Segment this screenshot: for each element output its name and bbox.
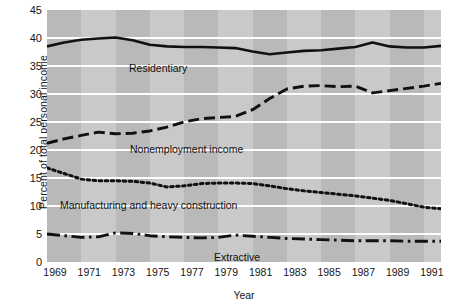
x-tick-label: 1977	[180, 266, 203, 278]
chart-figure: Percent of total personal income 0510152…	[0, 0, 451, 308]
x-tick-label: 1987	[352, 266, 375, 278]
x-tick-label: 1975	[146, 266, 169, 278]
series-label: Nonemployment income	[130, 143, 243, 155]
x-tick-label: 1981	[249, 266, 272, 278]
x-tick-label: 1989	[386, 266, 409, 278]
x-tick-label: 1971	[78, 266, 101, 278]
x-tick-label: 1979	[215, 266, 238, 278]
x-tick-label: 1969	[43, 266, 66, 278]
series-label: Extractive	[214, 251, 260, 263]
x-tick-label: 1985	[317, 266, 340, 278]
series-line	[47, 233, 441, 241]
plot-area	[47, 10, 441, 262]
y-tick-label: 0	[36, 256, 42, 268]
series-line	[47, 83, 441, 143]
x-tick-label: 1991	[420, 266, 443, 278]
x-tick-label: 1973	[112, 266, 135, 278]
x-tick-label: 1983	[283, 266, 306, 278]
series-lines	[47, 10, 441, 262]
y-tick-label: 45	[30, 4, 42, 16]
x-axis-title: Year	[47, 289, 441, 301]
series-line	[47, 37, 441, 54]
series-label: Manufacturing and heavy construction	[60, 199, 237, 211]
series-label: Residentiary	[129, 62, 187, 74]
